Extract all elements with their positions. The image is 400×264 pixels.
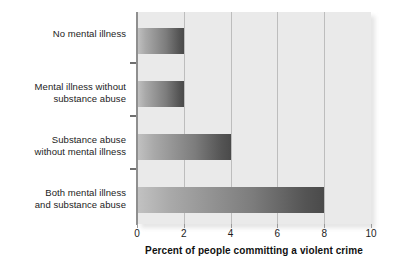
x-axis-tick-label: 10: [365, 228, 376, 239]
category-label-line: Substance abuse: [0, 134, 126, 146]
category-label-mental-illness-without-substance-abuse: Mental illness without substance abuse: [0, 81, 126, 104]
category-axis-labels: No mental illness Mental illness without…: [0, 12, 132, 227]
x-axis-tick-label: 8: [321, 228, 327, 239]
y-axis-spine: [136, 12, 138, 225]
x-axis-tick-label: 0: [134, 228, 140, 239]
category-label-line: substance abuse: [0, 93, 126, 105]
category-label-line: and substance abuse: [0, 199, 126, 211]
x-axis-title: Percent of people committing a violent c…: [137, 245, 371, 256]
x-axis-tick-label: 4: [228, 228, 234, 239]
category-label-line: No mental illness: [0, 28, 126, 40]
plot-area: [137, 12, 371, 224]
gridline: [324, 12, 325, 224]
bar: [137, 187, 324, 213]
category-label-both-mental-illness-and-substance-abuse: Both mental illness and substance abuse: [0, 187, 126, 210]
category-label-line: Both mental illness: [0, 187, 126, 199]
y-axis-minor-tick: [130, 62, 136, 64]
x-axis-tick-label: 6: [275, 228, 281, 239]
category-label-line: without mental illness: [0, 146, 126, 158]
bar-chart-figure: No mental illness Mental illness without…: [0, 0, 400, 264]
category-label-line: Mental illness without: [0, 81, 126, 93]
x-axis-tick-label: 2: [181, 228, 187, 239]
category-label-no-mental-illness: No mental illness: [0, 28, 126, 40]
bar: [137, 28, 184, 54]
bar: [137, 81, 184, 107]
category-label-substance-abuse-without-mental-illness: Substance abuse without mental illness: [0, 134, 126, 157]
y-axis-minor-tick: [130, 168, 136, 170]
bar: [137, 134, 231, 160]
y-axis-minor-tick: [130, 115, 136, 117]
